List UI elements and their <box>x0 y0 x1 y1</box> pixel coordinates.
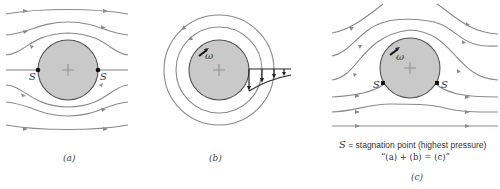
stagnation-label-a-right: S <box>100 71 107 82</box>
stagnation-label-a-left: S <box>29 71 36 82</box>
omega-label-b: ω <box>205 50 213 61</box>
stagnation-label-c-left: S <box>373 79 380 90</box>
panel-a: S S (a) <box>6 9 128 163</box>
caption-b: (b) <box>209 153 222 163</box>
velocity-profile-b <box>247 69 291 91</box>
panel-c: ω S S S = stagnation point (highest pres… <box>332 4 498 182</box>
legend-equation: “(a) + (b) = (c)” <box>381 152 450 162</box>
omega-label-c: ω <box>396 51 404 62</box>
stagnation-point-c-right <box>435 81 439 85</box>
panel-b: ω (b) <box>164 15 291 163</box>
cylinder-flow-diagram: S S (a) ω (b) <box>0 0 500 189</box>
caption-c: (c) <box>411 172 424 182</box>
caption-a: (a) <box>63 153 76 163</box>
stagnation-point-c-left <box>381 81 385 85</box>
stagnation-point-a-left <box>36 68 41 73</box>
legend-note: S = stagnation point (highest pressure) … <box>339 139 487 162</box>
legend-definition: = stagnation point (highest pressure) <box>346 140 487 150</box>
stagnation-label-c-right: S <box>441 79 448 90</box>
svg-text:S = stagnation point (highest: S = stagnation point (highest pressure) <box>339 139 487 150</box>
